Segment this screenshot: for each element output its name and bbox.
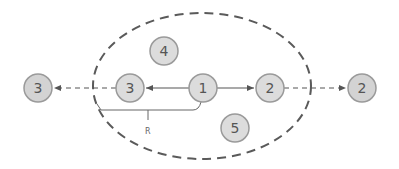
node-3-inner: 3: [116, 74, 144, 102]
node-2-inner: 2: [256, 74, 284, 102]
node-label: 4: [160, 43, 169, 59]
node-label: 1: [199, 80, 208, 96]
diagram-canvas: R 3 3 1 2 2 4 5: [0, 0, 399, 169]
node-label: 5: [231, 120, 240, 136]
node-2-outer: 2: [348, 74, 376, 102]
node-4: 4: [150, 37, 178, 65]
radius-label: R: [145, 127, 151, 136]
node-label: 2: [358, 80, 367, 96]
node-label: 3: [126, 80, 135, 96]
radius-bracket: [97, 102, 201, 110]
node-label: 2: [266, 80, 275, 96]
node-3-outer: 3: [24, 74, 52, 102]
node-label: 3: [34, 80, 43, 96]
node-5: 5: [221, 114, 249, 142]
node-1: 1: [189, 74, 217, 102]
